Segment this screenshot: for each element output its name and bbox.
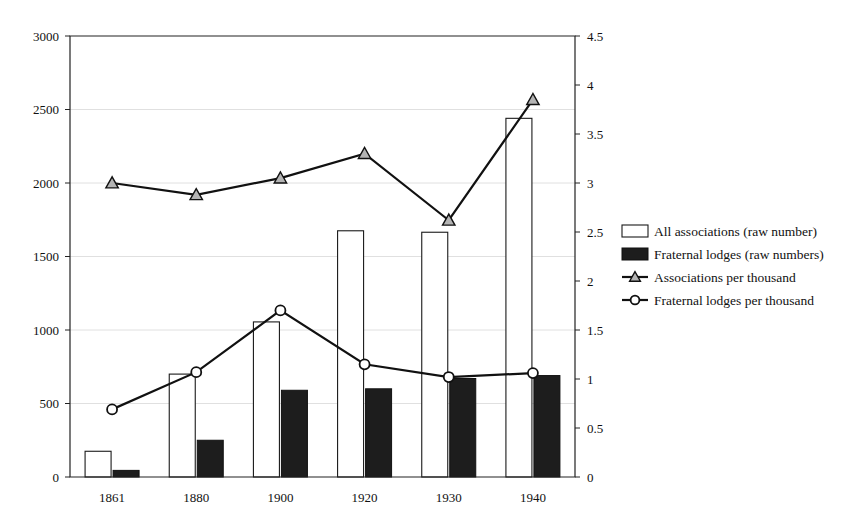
marker-lodges-1920 bbox=[360, 359, 370, 369]
marker-lodges-1861 bbox=[107, 404, 117, 414]
y2-tick-label-3.5: 3.5 bbox=[587, 127, 603, 142]
y-tick-label-1500: 1500 bbox=[33, 249, 59, 264]
x-tick-label-1920: 1920 bbox=[352, 490, 378, 505]
x-tick-label-1900: 1900 bbox=[267, 490, 293, 505]
y-tick-label-3000: 3000 bbox=[33, 29, 59, 44]
bar-all-associations-1940 bbox=[506, 118, 532, 477]
bar-all-associations-1930 bbox=[422, 232, 448, 477]
bar-all-associations-1920 bbox=[338, 231, 364, 477]
legend-label-4: Fraternal lodges per thousand bbox=[654, 293, 814, 308]
bar-fraternal-lodges-1940 bbox=[534, 376, 560, 477]
legend-label-2: Fraternal lodges (raw numbers) bbox=[654, 247, 824, 262]
marker-lodges-1880 bbox=[191, 367, 201, 377]
legend-label-1: All associations (raw number) bbox=[654, 224, 817, 239]
y-tick-label-1000: 1000 bbox=[33, 323, 59, 338]
y2-tick-label-0.5: 0.5 bbox=[587, 421, 603, 436]
legend-swatch-filled-rect bbox=[622, 248, 648, 260]
y-tick-label-500: 500 bbox=[40, 396, 60, 411]
legend-swatch-open-rect bbox=[622, 225, 648, 237]
bar-fraternal-lodges-1880 bbox=[197, 440, 223, 477]
legend-marker-circle-icon bbox=[631, 296, 640, 305]
y2-tick-label-4.5: 4.5 bbox=[587, 29, 603, 44]
y2-tick-label-4: 4 bbox=[587, 78, 594, 93]
y2-tick-label-1: 1 bbox=[587, 372, 594, 387]
bar-fraternal-lodges-1900 bbox=[281, 390, 307, 477]
chart-canvas: 050010001500200025003000 00.511.522.533.… bbox=[0, 0, 849, 526]
y2-tick-label-2.5: 2.5 bbox=[587, 225, 603, 240]
bar-all-associations-1900 bbox=[253, 322, 279, 477]
chart-figure: 050010001500200025003000 00.511.522.533.… bbox=[0, 0, 849, 526]
y2-tick-label-2: 2 bbox=[587, 274, 594, 289]
legend-label-3: Associations per thousand bbox=[654, 270, 796, 285]
marker-lodges-1940 bbox=[528, 368, 538, 378]
x-tick-label-1880: 1880 bbox=[183, 490, 209, 505]
bar-fraternal-lodges-1920 bbox=[366, 389, 392, 477]
y2-tick-label-1.5: 1.5 bbox=[587, 323, 603, 338]
bar-fraternal-lodges-1930 bbox=[450, 379, 476, 477]
y-tick-label-0: 0 bbox=[53, 470, 60, 485]
x-tick-label-1861: 1861 bbox=[99, 490, 125, 505]
marker-lodges-1900 bbox=[275, 305, 285, 315]
y2-tick-label-3: 3 bbox=[587, 176, 594, 191]
y-tick-label-2500: 2500 bbox=[33, 102, 59, 117]
y-tick-label-2000: 2000 bbox=[33, 176, 59, 191]
x-tick-label-1940: 1940 bbox=[520, 490, 546, 505]
marker-lodges-1930 bbox=[444, 372, 454, 382]
bar-all-associations-1880 bbox=[169, 374, 195, 477]
y2-tick-label-0: 0 bbox=[587, 470, 594, 485]
bar-fraternal-lodges-1861 bbox=[113, 470, 139, 477]
bar-all-associations-1861 bbox=[85, 451, 111, 477]
x-tick-label-1930: 1930 bbox=[436, 490, 462, 505]
